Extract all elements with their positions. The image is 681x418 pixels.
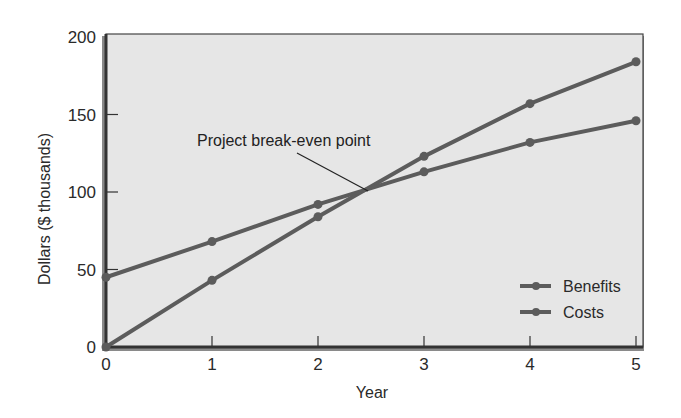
y-tick-label: 200: [68, 28, 96, 47]
data-point-marker: [208, 237, 217, 246]
legend-marker-costs: [532, 308, 540, 316]
data-point-marker: [526, 99, 535, 108]
line-chart: 050100150200 012345 Dollars ($ thousands…: [0, 0, 681, 418]
plot-area: [106, 34, 643, 347]
x-tick-label: 0: [101, 355, 110, 374]
y-tick-label: 0: [87, 338, 96, 357]
legend-marker-benefits: [532, 282, 540, 290]
x-tick-label: 5: [631, 355, 640, 374]
x-tick-label: 4: [525, 355, 534, 374]
data-point-marker: [632, 116, 641, 125]
y-axis-title: Dollars ($ thousands): [36, 133, 53, 285]
data-point-marker: [420, 167, 429, 176]
data-point-marker: [314, 200, 323, 209]
legend-label-costs: Costs: [563, 304, 604, 321]
y-tick-label: 50: [77, 261, 96, 280]
y-tick-label: 150: [68, 106, 96, 125]
data-point-marker: [314, 212, 323, 221]
y-tick-label: 100: [68, 183, 96, 202]
data-point-marker: [420, 152, 429, 161]
data-point-marker: [102, 343, 111, 352]
legend-label-benefits: Benefits: [563, 278, 621, 295]
data-point-marker: [102, 273, 111, 282]
x-axis-title: Year: [356, 384, 389, 401]
x-tick-label: 3: [419, 355, 428, 374]
data-point-marker: [208, 276, 217, 285]
data-point-marker: [526, 138, 535, 147]
x-tick-label: 1: [207, 355, 216, 374]
data-point-marker: [632, 57, 641, 66]
break-even-annotation: Project break-even point: [197, 132, 371, 149]
x-tick-label: 2: [313, 355, 322, 374]
